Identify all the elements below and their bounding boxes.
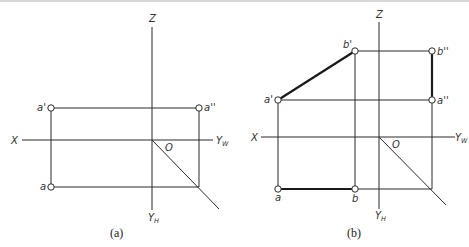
yw-axis-label: YW (216, 135, 229, 148)
label-a-front: a' (264, 94, 273, 105)
segment-ab-front-view (278, 51, 355, 100)
z-axis-label: Z (148, 13, 157, 24)
point-a-front (48, 105, 54, 111)
45-degree-line (152, 140, 219, 209)
yh-axis-label: YH (148, 212, 159, 225)
label-b-side: b'' (437, 46, 449, 57)
label-b-front: b' (343, 39, 352, 50)
origin-label: O (165, 142, 173, 153)
label-a-side: a'' (437, 95, 449, 106)
origin-label: O (392, 139, 400, 150)
point-b-front (352, 48, 358, 54)
45-degree-line (379, 137, 446, 205)
x-axis-label: X (250, 132, 259, 143)
panel-b: Z X YW YH O a' b' b'' a'' a b (b) (250, 9, 468, 240)
yw-axis-label: YW (455, 132, 468, 145)
label-b-top: b (352, 193, 358, 204)
point-b-top (352, 186, 358, 192)
x-axis-label: X (10, 135, 19, 146)
caption-b: (b) (347, 226, 361, 240)
point-a-top (48, 184, 54, 190)
projection-figure: Z X YW YH O a' a'' a (a) Z X (0, 0, 469, 247)
point-a-front (275, 97, 281, 103)
label-a-top: a (275, 192, 281, 203)
label-a-top: a (40, 181, 46, 192)
point-a-side (429, 97, 435, 103)
z-axis-label: Z (375, 9, 384, 20)
point-a-side (196, 105, 202, 111)
point-b-side (429, 48, 435, 54)
caption-a: (a) (110, 226, 123, 240)
yh-axis-label: YH (375, 210, 386, 223)
label-a-side: a'' (204, 102, 216, 113)
label-a-front: a' (37, 102, 46, 113)
panel-a: Z X YW YH O a' a'' a (a) (10, 13, 229, 240)
